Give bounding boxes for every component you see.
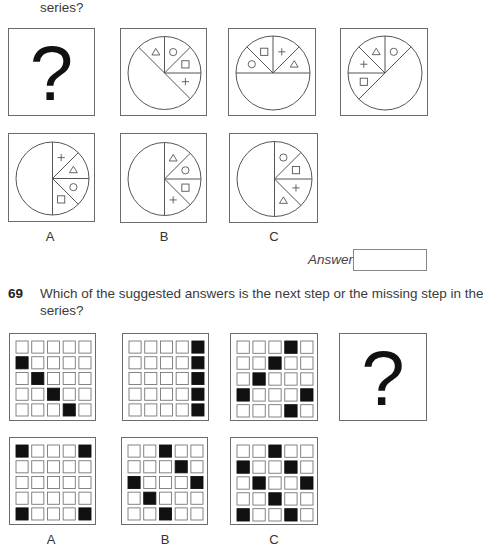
square-icon	[292, 167, 299, 174]
empty-cell	[253, 461, 265, 473]
q69-number: 69	[8, 286, 23, 301]
plus-icon	[292, 184, 299, 191]
filled-cell	[285, 405, 297, 417]
empty-cell	[144, 508, 156, 520]
plus-icon	[360, 61, 367, 68]
filled-cell	[128, 476, 140, 488]
grid-figure	[231, 334, 319, 422]
empty-cell	[301, 509, 313, 521]
empty-cell	[145, 372, 157, 384]
empty-cell	[176, 341, 188, 353]
empty-cell	[128, 508, 140, 520]
empty-cell	[144, 461, 156, 473]
q69-option-a[interactable]	[9, 437, 96, 525]
grid-figure	[123, 334, 210, 422]
empty-cell	[253, 341, 265, 353]
empty-cell	[32, 404, 44, 416]
filled-cell	[192, 357, 204, 369]
empty-cell	[269, 509, 281, 521]
empty-cell	[145, 404, 157, 416]
q68-option-a[interactable]	[8, 133, 95, 222]
empty-cell	[269, 389, 281, 401]
grid-figure	[10, 334, 97, 422]
pie-figure	[229, 29, 317, 117]
filled-cell	[16, 445, 28, 457]
empty-cell	[253, 445, 265, 457]
circle-icon	[182, 167, 189, 174]
empty-cell	[301, 445, 313, 457]
question-mark-icon: ?	[9, 33, 94, 113]
triangle-icon	[169, 154, 177, 160]
q69-option-a-label: A	[41, 532, 61, 547]
empty-cell	[301, 493, 313, 505]
circle-icon	[390, 48, 397, 55]
q68-series-figure-3	[228, 28, 316, 116]
grid-figure	[231, 438, 319, 526]
pie-figure	[121, 29, 208, 117]
empty-cell	[79, 357, 91, 369]
q69-option-c[interactable]	[230, 437, 318, 525]
empty-cell	[237, 445, 249, 457]
plus-icon	[278, 48, 285, 55]
empty-cell	[32, 357, 44, 369]
empty-cell	[79, 404, 91, 416]
filled-cell	[253, 373, 265, 385]
empty-cell	[237, 477, 249, 489]
q68-option-c[interactable]	[229, 133, 318, 223]
empty-cell	[47, 372, 59, 384]
empty-cell	[269, 341, 281, 353]
empty-cell	[191, 445, 203, 457]
filled-cell	[285, 461, 297, 473]
filled-cell	[285, 509, 297, 521]
circle-icon	[280, 154, 287, 161]
q69-option-c-label: C	[264, 532, 284, 547]
q68-option-c-label: C	[264, 229, 284, 244]
q68-option-b[interactable]	[120, 133, 207, 223]
filled-cell	[79, 445, 91, 457]
q69-series-figure-1	[9, 333, 96, 421]
empty-cell	[47, 357, 59, 369]
empty-cell	[175, 445, 187, 457]
filled-cell	[144, 492, 156, 504]
empty-cell	[47, 341, 59, 353]
square-icon	[58, 196, 65, 203]
empty-cell	[63, 372, 75, 384]
q69-series-question-box: ?	[339, 333, 427, 421]
circle-icon	[70, 184, 77, 191]
filled-cell	[16, 357, 28, 369]
q68-question-tail: series?	[40, 0, 84, 15]
empty-cell	[47, 445, 59, 457]
empty-cell	[191, 492, 203, 504]
q68-answer-input[interactable]	[353, 249, 427, 271]
empty-cell	[32, 461, 44, 473]
empty-cell	[160, 372, 172, 384]
q68-series-figure-2	[120, 28, 207, 116]
filled-cell	[237, 509, 249, 521]
empty-cell	[16, 388, 28, 400]
empty-cell	[301, 373, 313, 385]
empty-cell	[285, 373, 297, 385]
empty-cell	[32, 492, 44, 504]
empty-cell	[32, 508, 44, 520]
empty-cell	[128, 461, 140, 473]
empty-cell	[191, 508, 203, 520]
q68-series-question-box: ?	[8, 28, 95, 116]
empty-cell	[32, 445, 44, 457]
empty-cell	[79, 461, 91, 473]
filled-cell	[237, 389, 249, 401]
empty-cell	[16, 461, 28, 473]
empty-cell	[301, 405, 313, 417]
q69-option-b[interactable]	[121, 437, 208, 525]
empty-cell	[63, 388, 75, 400]
empty-cell	[176, 357, 188, 369]
filled-cell	[192, 372, 204, 384]
triangle-icon	[279, 197, 287, 203]
filled-cell	[192, 341, 204, 353]
filled-cell	[63, 404, 75, 416]
filled-cell	[269, 493, 281, 505]
empty-cell	[32, 388, 44, 400]
empty-cell	[176, 388, 188, 400]
empty-cell	[253, 405, 265, 417]
empty-cell	[128, 492, 140, 504]
filled-cell	[32, 372, 44, 384]
